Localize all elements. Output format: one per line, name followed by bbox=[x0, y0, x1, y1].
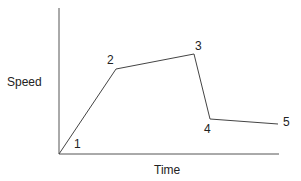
point-label-5: 5 bbox=[283, 116, 290, 128]
speed-line bbox=[59, 54, 278, 154]
point-label-3: 3 bbox=[195, 40, 202, 52]
x-axis-label: Time bbox=[154, 164, 180, 176]
diagram-canvas bbox=[0, 0, 301, 181]
point-label-4: 4 bbox=[204, 123, 211, 135]
y-axis-label: Speed bbox=[7, 76, 42, 88]
point-label-1: 1 bbox=[74, 138, 81, 150]
point-label-2: 2 bbox=[107, 54, 114, 66]
